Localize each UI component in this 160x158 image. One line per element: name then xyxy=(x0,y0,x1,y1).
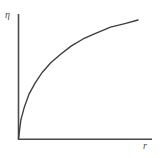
axes-group xyxy=(18,14,152,140)
curve-eta-of-r xyxy=(19,20,139,139)
figure-container: η r xyxy=(0,0,160,158)
y-axis-label: η xyxy=(5,10,10,20)
chart-plot xyxy=(0,0,160,158)
data-series-group xyxy=(19,20,139,139)
x-axis-label: r xyxy=(143,141,147,151)
